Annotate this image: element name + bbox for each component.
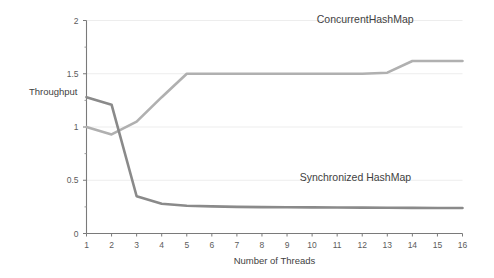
x-tick-label: 6 xyxy=(209,240,214,250)
gridlines-group xyxy=(87,21,463,181)
x-tick-label: 3 xyxy=(134,240,139,250)
chart-container: 00.511.52 12345678910111213141516 Concur… xyxy=(0,0,494,278)
x-tick-label: 12 xyxy=(357,240,367,250)
x-tick-label: 8 xyxy=(260,240,265,250)
x-tick-labels-group: 12345678910111213141516 xyxy=(84,240,467,250)
x-tick-label: 4 xyxy=(159,240,164,250)
y-tick-label: 1.5 xyxy=(67,69,79,79)
series-label: Synchronized HashMap xyxy=(300,171,412,183)
x-tick-label: 15 xyxy=(433,240,443,250)
y-tick-label: 1 xyxy=(74,122,79,132)
line-chart-plot: 00.511.52 12345678910111213141516 Concur… xyxy=(0,0,494,278)
x-tick-label: 13 xyxy=(383,240,393,250)
x-tick-label: 7 xyxy=(235,240,240,250)
y-axis-title: Throughput xyxy=(29,86,78,97)
series-paths-group xyxy=(87,61,463,208)
x-axis-title: Number of Threads xyxy=(234,255,316,266)
x-tick-label: 9 xyxy=(285,240,290,250)
x-tick-label: 11 xyxy=(333,240,342,250)
x-tick-label: 1 xyxy=(84,240,89,250)
x-tick-label: 16 xyxy=(458,240,468,250)
series-label: ConcurrentHashMap xyxy=(317,13,414,25)
y-tick-labels-group: 00.511.52 xyxy=(67,16,79,239)
y-tick-label: 0.5 xyxy=(67,175,79,185)
y-tick-label: 2 xyxy=(74,16,79,26)
series-labels-group: ConcurrentHashMapSynchronized HashMap xyxy=(300,13,414,184)
x-tick-label: 2 xyxy=(109,240,114,250)
y-tick-label: 0 xyxy=(74,229,79,239)
x-tick-label: 10 xyxy=(307,240,317,250)
series-line xyxy=(87,61,463,134)
x-tick-label: 5 xyxy=(184,240,189,250)
x-tick-label: 14 xyxy=(408,240,418,250)
tick-marks-group xyxy=(83,21,463,237)
